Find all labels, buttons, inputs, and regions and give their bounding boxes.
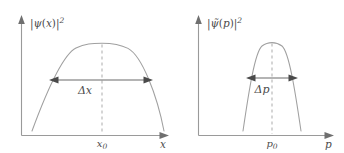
position-x-axis-label: x — [160, 138, 166, 150]
position-y-axis-arrowhead — [18, 15, 25, 24]
momentum-center-tick-label: p0 — [266, 138, 277, 151]
momentum-y-axis-arrowhead — [195, 15, 202, 24]
position-y-axis-label: |ψ(x)|2 — [30, 16, 64, 31]
uncertainty-figure: |ψ(x)|2 Δx x0 x |ψ̃(p)|2 — [0, 0, 344, 153]
momentum-x-axis-label: p — [325, 138, 332, 150]
position-width-label: Δx — [77, 84, 93, 97]
momentum-panel: |ψ̃(p)|2 Δp p0 p — [195, 15, 334, 151]
position-center-tick-label: x0 — [97, 138, 108, 151]
position-panel: |ψ(x)|2 Δx x0 x — [18, 15, 169, 151]
position-width-arrow-left-head — [49, 77, 59, 84]
momentum-y-axis-label: |ψ̃(p)|2 — [207, 16, 242, 31]
figure-canvas: |ψ(x)|2 Δx x0 x |ψ̃(p)|2 — [0, 0, 344, 153]
position-density-curve — [32, 43, 164, 131]
momentum-width-label: Δp — [254, 83, 270, 96]
